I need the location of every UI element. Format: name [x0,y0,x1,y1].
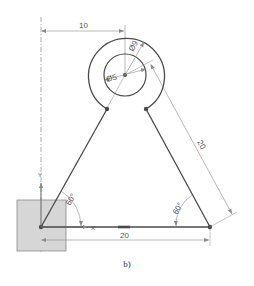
angle-right: 60° [171,195,192,226]
y-axis-label: Y [38,172,42,178]
x-axis-label: X [91,225,95,231]
dimension-slanted-side: 20 [151,65,237,227]
dimension-bottom-side: 20 [42,229,210,246]
dimension-label-10: 10 [79,21,88,30]
right-angle-label: 60° [171,201,185,216]
bottom-dimension-label: 20 [120,231,129,240]
inner-diameter-label: Ø5 [105,72,118,84]
dimension-horizontal-offset: 10 [42,21,125,75]
figure-caption: b) [0,259,254,269]
left-side [41,109,107,227]
sketch-drawing: 10 Ø9 Ø5 20 20 60° 60° [0,0,254,286]
outer-diameter-label: Ø9 [127,39,140,53]
